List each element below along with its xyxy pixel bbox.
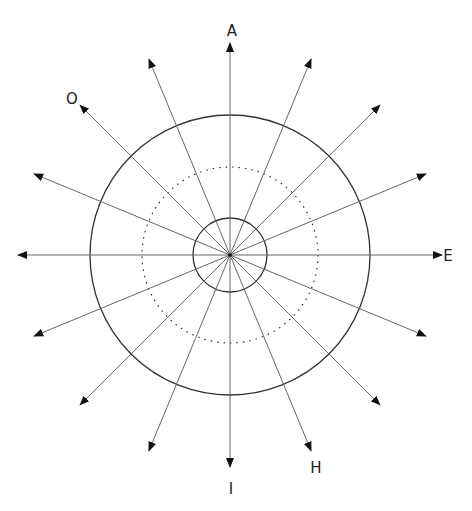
arrow-ray-22.5deg [230, 174, 426, 255]
label-i: I [229, 480, 233, 498]
direction-labels: A O E H I [66, 22, 453, 498]
arrow-ray-45deg [230, 105, 380, 255]
arrow-ray-202.5deg [34, 255, 230, 336]
label-h: H [310, 459, 321, 477]
radial-diagram: A O E H I [0, 0, 472, 511]
arrow-ray-157.5deg [34, 174, 230, 255]
arrow-ray-315deg [230, 255, 380, 405]
label-a: A [227, 22, 238, 40]
arrow-ray-112.5deg [149, 59, 230, 255]
arrow-ray-225deg [80, 255, 230, 405]
arrow-ray-292.5deg [230, 255, 311, 451]
arrow-ray-247.5deg [149, 255, 230, 451]
arrow-ray-135deg [80, 105, 230, 255]
label-o: O [66, 90, 78, 108]
center-point [228, 253, 232, 257]
arrow-ray-337.5deg [230, 255, 426, 336]
label-e: E [443, 247, 452, 265]
arrow-ray-67.5deg [230, 59, 311, 255]
